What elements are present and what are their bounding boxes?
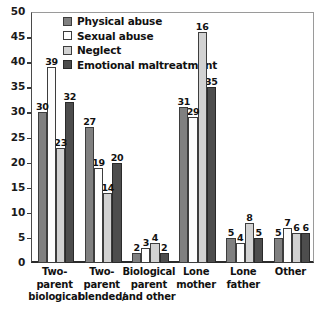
- bar-value-label: 29: [187, 106, 200, 117]
- bar[interactable]: 29: [188, 117, 197, 263]
- bar-value-label: 39: [45, 56, 58, 67]
- y-axis-tick-label: 30: [11, 105, 25, 117]
- bar[interactable]: 4: [150, 243, 159, 263]
- bar[interactable]: 5: [274, 238, 283, 263]
- x-axis-category-line: and other: [121, 291, 176, 304]
- y-axis-tick-label: 25: [11, 131, 25, 143]
- bar-value-label: 4: [237, 232, 243, 243]
- bar[interactable]: 30: [38, 112, 47, 263]
- bar-group: 5766: [274, 12, 311, 263]
- bar[interactable]: 16: [198, 32, 207, 263]
- bar[interactable]: 32: [65, 102, 74, 263]
- bar-value-label: 6: [303, 222, 309, 233]
- y-axis-tick-label: 0: [18, 256, 25, 268]
- bar-value-label: 20: [111, 152, 124, 163]
- bar-value-label: 5: [228, 227, 234, 238]
- bar-value-label: 16: [196, 21, 209, 32]
- bar[interactable]: 7: [283, 228, 292, 263]
- y-axis-tick-label: 15: [11, 181, 25, 193]
- bar-chart: 50454035302520151050 3039233227191420234…: [0, 0, 324, 324]
- bar-value-label: 8: [246, 212, 252, 223]
- bar[interactable]: 23: [56, 148, 65, 263]
- legend-swatch-icon: [63, 46, 72, 55]
- bar[interactable]: 39: [47, 67, 56, 263]
- x-axis-category-line: Other: [263, 266, 318, 279]
- legend-swatch-icon: [63, 31, 72, 40]
- bar-value-label: 2: [161, 242, 167, 253]
- bar[interactable]: 6: [292, 233, 301, 263]
- bar-value-label: 27: [83, 116, 96, 127]
- bar-value-label: 32: [64, 91, 77, 102]
- bar[interactable]: 6: [301, 233, 310, 263]
- y-axis-tick-label: 40: [11, 55, 25, 67]
- bar-value-label: 2: [133, 242, 139, 253]
- bar[interactable]: 5: [254, 238, 263, 263]
- bar-value-label: 3: [143, 237, 149, 248]
- legend-item-label: Sexual abuse: [77, 30, 153, 42]
- bar-value-label: 4: [152, 232, 158, 243]
- bar-value-label: 35: [205, 76, 218, 87]
- bar-value-label: 31: [177, 96, 190, 107]
- legend-item[interactable]: Emotional maltreatment: [63, 58, 217, 72]
- x-axis-category-label: Other: [263, 266, 318, 279]
- bar[interactable]: 27: [85, 127, 94, 263]
- bar-value-label: 5: [255, 227, 261, 238]
- bar-value-label: 23: [54, 137, 67, 148]
- y-axis-tick-label: 50: [11, 5, 25, 17]
- x-axis-category-line: father: [216, 279, 271, 292]
- bar-group: 5485: [226, 12, 263, 263]
- legend-swatch-icon: [63, 17, 72, 26]
- legend-item-label: Physical abuse: [77, 15, 162, 27]
- bar[interactable]: 14: [103, 193, 112, 263]
- legend-item-label: Neglect: [77, 44, 121, 56]
- bar[interactable]: 2: [160, 253, 169, 263]
- bar[interactable]: 19: [94, 168, 103, 263]
- y-axis-tick-label: 5: [18, 231, 25, 243]
- bar[interactable]: 5: [226, 238, 235, 263]
- legend-item[interactable]: Physical abuse: [63, 14, 217, 28]
- bar[interactable]: 3: [141, 248, 150, 263]
- bar[interactable]: 2: [132, 253, 141, 263]
- y-axis-tick-label: 10: [11, 206, 25, 218]
- bar-value-label: 30: [36, 101, 49, 112]
- y-axis-tick-label: 20: [11, 156, 25, 168]
- bar-value-label: 7: [284, 217, 290, 228]
- legend-item[interactable]: Sexual abuse: [63, 29, 217, 43]
- legend-item[interactable]: Neglect: [63, 43, 217, 57]
- y-axis-tick-label: 35: [11, 80, 25, 92]
- bar[interactable]: 4: [236, 243, 245, 263]
- bar-value-label: 19: [92, 157, 105, 168]
- y-axis: 50454035302520151050: [0, 12, 31, 263]
- chart-legend: Physical abuseSexual abuseNeglectEmotion…: [63, 12, 217, 72]
- x-axis: Two-parentbiologicalTwo-parentblended/Bi…: [31, 266, 314, 322]
- bar[interactable]: 35: [207, 87, 216, 263]
- y-axis-tick-label: 45: [11, 30, 25, 42]
- bar[interactable]: 8: [245, 223, 254, 263]
- legend-item-label: Emotional maltreatment: [77, 59, 217, 71]
- bar-value-label: 6: [293, 222, 299, 233]
- bar-value-label: 14: [102, 182, 115, 193]
- legend-swatch-icon: [63, 60, 72, 69]
- bar[interactable]: 31: [179, 107, 188, 263]
- bar[interactable]: 20: [112, 163, 121, 263]
- bar-value-label: 5: [275, 227, 281, 238]
